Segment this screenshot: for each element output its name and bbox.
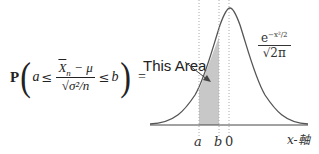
density-plot <box>0 0 319 154</box>
x-axis-label: x-軸 <box>287 130 310 147</box>
tick-label-zero: 0 <box>225 134 233 149</box>
pdf-exponent: −x²/2 <box>268 31 287 39</box>
tick-label-b: b <box>214 134 222 149</box>
pdf-denominator: √2π <box>263 46 286 60</box>
annotation-arrow-line <box>185 62 208 80</box>
normal-distribution-diagram: P ( a ≤ Xn − μ √σ²/n ≤ b ) = This Area ! <box>0 0 319 154</box>
pdf-formula: e−x²/2 √2π <box>258 31 291 60</box>
tick-label-a: a <box>194 134 202 149</box>
